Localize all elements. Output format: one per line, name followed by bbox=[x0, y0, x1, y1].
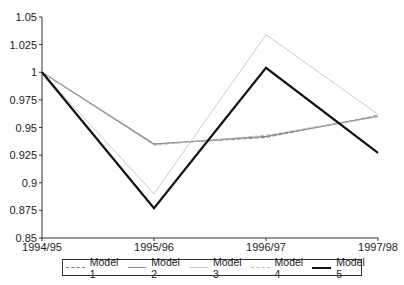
legend-label: Model 4 bbox=[275, 256, 307, 280]
axes: 1.051.02510.9750.950.9250.90.8750.851994… bbox=[9, 11, 397, 253]
x-tick-label: 1997/98 bbox=[358, 241, 398, 253]
legend-item-model-4: Model 4 bbox=[251, 256, 307, 280]
legend-label: Model 5 bbox=[336, 256, 368, 280]
legend-item-model-3: Model 3 bbox=[189, 256, 245, 280]
legend-item-model-2: Model 2 bbox=[128, 256, 184, 280]
line-chart: 1.051.02510.9750.950.9250.90.8750.851994… bbox=[0, 0, 404, 258]
series-line-model-5 bbox=[42, 68, 378, 208]
legend-label: Model 3 bbox=[213, 256, 245, 280]
y-tick-label: 0.95 bbox=[16, 122, 37, 134]
x-tick-label: 1996/97 bbox=[246, 241, 286, 253]
legend-label: Model 2 bbox=[151, 256, 183, 280]
series-lines bbox=[42, 35, 378, 208]
legend-swatch-model-1 bbox=[66, 267, 85, 268]
chart-legend: Model 1 Model 2 Model 3 Model 4 Model 5 bbox=[62, 259, 362, 276]
x-tick-label: 1995/96 bbox=[134, 241, 174, 253]
legend-item-model-5: Model 5 bbox=[312, 256, 368, 280]
legend-item-model-1: Model 1 bbox=[66, 256, 122, 280]
y-tick-label: 1 bbox=[31, 66, 37, 78]
y-tick-label: 0.9 bbox=[22, 177, 37, 189]
y-tick-label: 0.875 bbox=[9, 204, 37, 216]
y-tick-label: 0.975 bbox=[9, 94, 37, 106]
x-tick-label: 1994/95 bbox=[22, 241, 62, 253]
y-tick-label: 1.025 bbox=[9, 39, 37, 51]
y-tick-label: 0.925 bbox=[9, 149, 37, 161]
legend-label: Model 1 bbox=[90, 256, 122, 280]
y-tick-label: 1.05 bbox=[16, 11, 37, 23]
legend-swatch-model-5 bbox=[312, 267, 331, 269]
legend-swatch-model-4 bbox=[251, 267, 270, 268]
legend-swatch-model-2 bbox=[128, 267, 147, 268]
legend-swatch-model-3 bbox=[189, 267, 208, 268]
